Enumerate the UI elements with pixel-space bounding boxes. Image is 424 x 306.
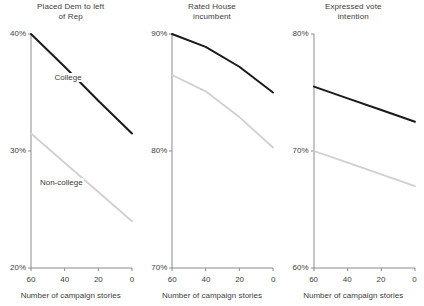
x-tick-label: 0 [122, 276, 142, 284]
x-tick-label: 40 [55, 276, 75, 284]
x-tick-label: 60 [21, 276, 41, 284]
x-tick-label: 60 [162, 276, 182, 284]
x-tick-label: 40 [337, 276, 357, 284]
x-axis-title: Number of campaign stories [0, 291, 141, 300]
x-tick-label: 20 [230, 276, 250, 284]
x-tick-label: 60 [304, 276, 324, 284]
y-tick-label: 70% [133, 264, 167, 272]
x-tick-label: 40 [196, 276, 216, 284]
series-annotation: College [53, 73, 82, 82]
x-tick-label: 0 [405, 276, 424, 284]
x-axis-title: Number of campaign stories [141, 291, 282, 300]
panel-rated-house-incumbent: Rated Houseincumbent 70%80%90%6040200 Nu… [141, 0, 282, 306]
y-tick-label: 70% [275, 147, 309, 155]
panel-placed-dem-left-of-rep: Placed Dem to leftof Rep 20%30%40%604020… [0, 0, 141, 306]
plot-area: 60%70%80%6040200 [283, 0, 424, 306]
y-tick-label: 80% [133, 147, 167, 155]
y-tick-label: 80% [275, 30, 309, 38]
multi-panel-line-chart: Placed Dem to leftof Rep 20%30%40%604020… [0, 0, 424, 306]
y-tick-label: 40% [0, 30, 26, 38]
x-tick-label: 20 [371, 276, 391, 284]
y-tick-label: 90% [133, 30, 167, 38]
plot-area: 20%30%40%6040200CollegeNon-college [0, 0, 141, 306]
x-axis-title: Number of campaign stories [283, 291, 424, 300]
plot-area: 70%80%90%6040200 [141, 0, 282, 306]
x-tick-label: 0 [263, 276, 283, 284]
y-tick-label: 20% [0, 264, 26, 272]
y-tick-label: 30% [0, 147, 26, 155]
y-tick-label: 60% [275, 264, 309, 272]
panel-expressed-vote-intention: Expressed voteintention 60%70%80%6040200… [283, 0, 424, 306]
x-tick-label: 20 [88, 276, 108, 284]
series-annotation: Non-college [39, 178, 84, 187]
